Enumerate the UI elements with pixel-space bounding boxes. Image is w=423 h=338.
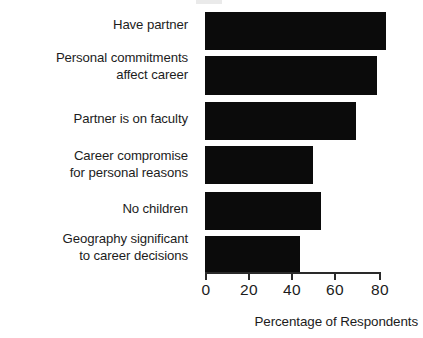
x-axis-tick-label-40: 40 [283, 281, 301, 299]
x-axis-title: Percentage of Respondents [0, 313, 418, 330]
x-axis-tick-0 [205, 272, 207, 280]
bar-geography-significant [205, 236, 300, 272]
category-axis-labels: Have partner Personal commitments affect… [0, 0, 196, 272]
x-axis-tick-label-0: 0 [202, 281, 211, 299]
x-axis-tick-label-80: 80 [371, 281, 389, 299]
bar-have-partner [205, 12, 386, 50]
scan-artifact [196, 0, 222, 4]
category-label-geography-significant: Geography significant to career decision… [63, 231, 188, 264]
x-axis-tick-label-20: 20 [240, 281, 258, 299]
x-axis-tick-20 [248, 272, 250, 280]
category-label-no-children: No children [122, 201, 188, 218]
x-axis-tick-label-60: 60 [326, 281, 344, 299]
x-axis-tick-80 [379, 272, 381, 280]
category-label-career-compromise: Career compromise for personal reasons [70, 148, 188, 181]
horizontal-bar-chart: Have partner Personal commitments affect… [0, 0, 423, 338]
category-label-partner-on-faculty: Partner is on faculty [74, 111, 188, 128]
category-label-personal-commitments: Personal commitments affect career [56, 50, 188, 83]
x-axis-line [205, 272, 381, 274]
x-axis-tick-60 [334, 272, 336, 280]
x-axis-tick-40 [291, 272, 293, 280]
category-label-have-partner: Have partner [113, 17, 188, 34]
bar-no-children [205, 192, 321, 230]
plot-area [205, 12, 395, 272]
bar-partner-on-faculty [205, 102, 356, 140]
bar-personal-commitments [205, 56, 377, 95]
bar-career-compromise [205, 146, 313, 184]
